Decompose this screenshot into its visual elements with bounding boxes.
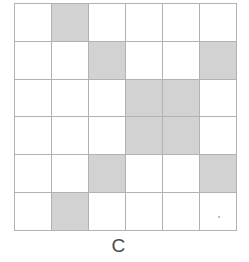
cell-r2c5 (163, 42, 200, 80)
cell-r3c2 (52, 80, 89, 118)
scan-artifact-speck (218, 216, 220, 218)
cell-r1c2 (52, 4, 89, 42)
cell-r4c2 (52, 117, 89, 155)
cell-r4c3 (89, 117, 126, 155)
cell-r3c1 (15, 80, 52, 118)
cell-r2c4 (126, 42, 163, 80)
cell-r1c1 (15, 4, 52, 42)
shaded-grid (14, 3, 237, 231)
cell-r1c5 (163, 4, 200, 42)
cell-r6c2 (52, 193, 89, 231)
cell-r6c4 (126, 193, 163, 231)
cell-r4c5 (163, 117, 200, 155)
cell-r1c6 (200, 4, 237, 42)
cell-r2c2 (52, 42, 89, 80)
cell-r3c3 (89, 80, 126, 118)
cell-r5c2 (52, 155, 89, 193)
cell-r2c3 (89, 42, 126, 80)
cell-r5c5 (163, 155, 200, 193)
cell-r5c6 (200, 155, 237, 193)
cell-r6c3 (89, 193, 126, 231)
cell-r3c4 (126, 80, 163, 118)
cell-r4c6 (200, 117, 237, 155)
cell-r1c4 (126, 4, 163, 42)
cell-r6c1 (15, 193, 52, 231)
cell-r4c4 (126, 117, 163, 155)
cell-r6c6 (200, 193, 237, 231)
cell-r5c1 (15, 155, 52, 193)
cell-r3c5 (163, 80, 200, 118)
cell-r5c3 (89, 155, 126, 193)
cell-r3c6 (200, 80, 237, 118)
cell-r2c1 (15, 42, 52, 80)
figure-caption: C (0, 233, 237, 259)
cell-r4c1 (15, 117, 52, 155)
figure-container: C (0, 0, 249, 262)
cell-r2c6 (200, 42, 237, 80)
cell-r5c4 (126, 155, 163, 193)
cell-r1c3 (89, 4, 126, 42)
cell-r6c5 (163, 193, 200, 231)
